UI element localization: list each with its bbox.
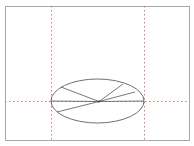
radial-line-left-axis[interactable] — [51, 101, 99, 102]
apex-vertex[interactable] — [98, 100, 100, 102]
canvas-border — [6, 7, 190, 141]
radial-line-right-axis[interactable] — [99, 101, 144, 102]
drawing-canvas[interactable] — [0, 0, 194, 146]
viewport-root — [0, 0, 194, 146]
wireframe-drawing[interactable] — [0, 0, 194, 146]
